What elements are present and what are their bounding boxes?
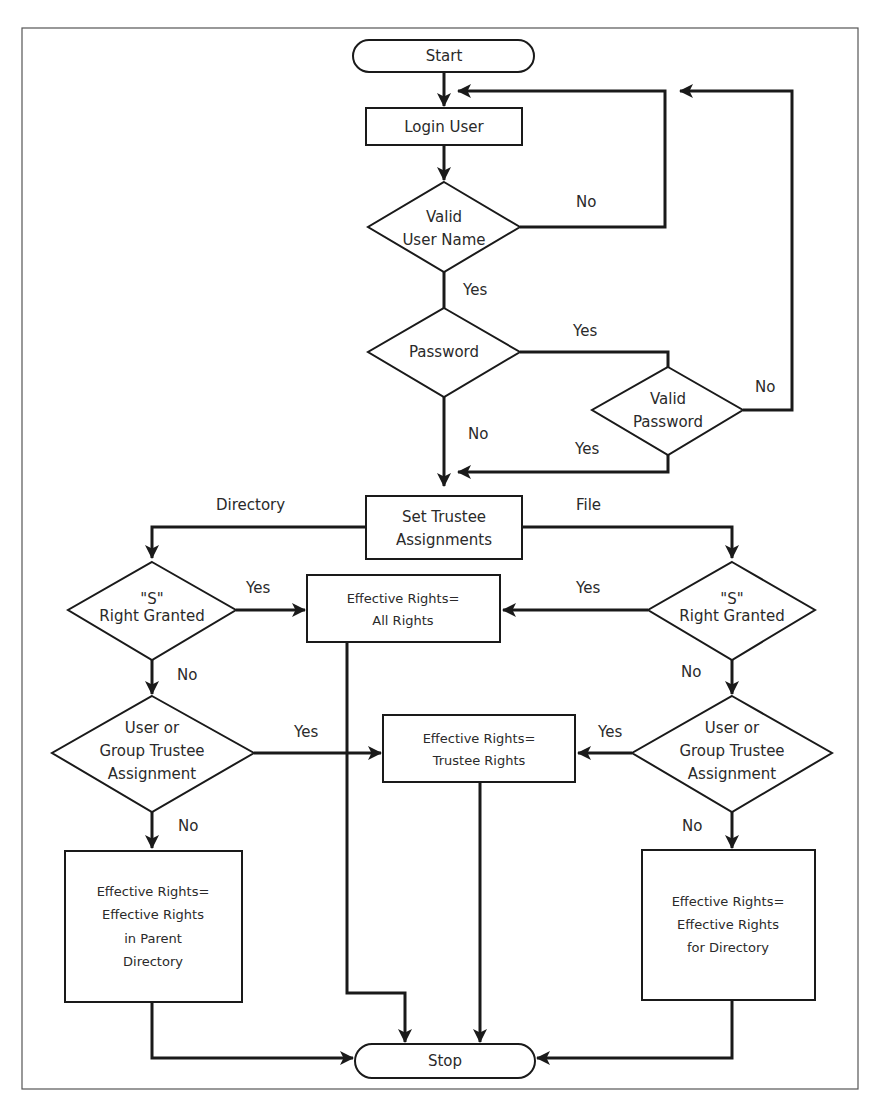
- edge-password-yes: [520, 352, 668, 367]
- label-gdir-yes: Yes: [293, 723, 318, 741]
- node-valid-user-name: [368, 182, 520, 272]
- edge-fordir-stop: [537, 1000, 732, 1058]
- trustee-rights-label-1: Effective Rights=: [423, 731, 536, 746]
- set-trustee-label-1: Set Trustee: [402, 508, 486, 526]
- edge-validpw-no-loop: [680, 91, 792, 410]
- label-sfile-yes: Yes: [575, 579, 600, 597]
- label-validpw-no: No: [755, 378, 775, 396]
- parent-dir-label-1: Effective Rights=: [97, 884, 210, 899]
- group-file-label-1: User or: [705, 719, 760, 737]
- s-right-file-label-2: Right Granted: [679, 607, 784, 625]
- node-set-trustee-assignments: [366, 496, 522, 559]
- stop-label: Stop: [428, 1052, 462, 1070]
- node-effective-all-rights: [307, 575, 500, 642]
- label-sdir-yes: Yes: [245, 579, 270, 597]
- edge-settrustee-file: [522, 527, 732, 558]
- group-dir-label-2: Group Trustee: [99, 742, 204, 760]
- for-dir-label-1: Effective Rights=: [672, 894, 785, 909]
- for-dir-label-3: for Directory: [687, 940, 769, 955]
- label-gdir-no: No: [178, 817, 198, 835]
- all-rights-label-2: All Rights: [372, 613, 433, 628]
- edge-parentdir-stop: [152, 1002, 353, 1058]
- label-sfile-no: No: [681, 663, 701, 681]
- valid-password-label-2: Password: [633, 413, 703, 431]
- all-rights-label-1: Effective Rights=: [347, 591, 460, 606]
- node-effective-parent-directory: [65, 851, 242, 1002]
- node-valid-password: [592, 367, 743, 455]
- s-right-dir-label-1: "S": [140, 590, 163, 608]
- label-sdir-no: No: [177, 666, 197, 684]
- valid-user-name-label-1: Valid: [426, 208, 462, 226]
- node-effective-trustee-rights: [383, 715, 575, 782]
- for-dir-label-2: Effective Rights: [677, 917, 779, 932]
- edge-settrustee-directory: [152, 527, 366, 558]
- group-dir-label-3: Assignment: [108, 765, 196, 783]
- label-validuser-no: No: [576, 193, 596, 211]
- password-label: Password: [409, 343, 479, 361]
- valid-password-label-1: Valid: [650, 390, 686, 408]
- label-directory: Directory: [216, 496, 285, 514]
- label-gfile-yes: Yes: [597, 723, 622, 741]
- parent-dir-label-2: Effective Rights: [102, 907, 204, 922]
- valid-user-name-label-2: User Name: [402, 231, 485, 249]
- label-password-yes: Yes: [572, 322, 597, 340]
- login-user-label: Login User: [404, 118, 484, 136]
- edge-validpw-yes: [458, 455, 668, 472]
- s-right-dir-label-2: Right Granted: [99, 607, 204, 625]
- group-file-label-2: Group Trustee: [679, 742, 784, 760]
- label-gfile-no: No: [682, 817, 702, 835]
- edge-allrights-stop: [347, 642, 405, 1042]
- group-dir-label-1: User or: [125, 719, 180, 737]
- set-trustee-label-2: Assignments: [396, 531, 492, 549]
- parent-dir-label-4: Directory: [123, 954, 183, 969]
- s-right-file-label-1: "S": [720, 590, 743, 608]
- group-file-label-3: Assignment: [688, 765, 776, 783]
- label-validuser-yes: Yes: [462, 281, 487, 299]
- start-label: Start: [426, 47, 463, 65]
- parent-dir-label-3: in Parent: [124, 931, 182, 946]
- trustee-rights-label-2: Trustee Rights: [432, 753, 526, 768]
- label-file: File: [576, 496, 601, 514]
- label-password-no: No: [468, 425, 488, 443]
- flowchart-canvas: Start Login User Valid User Name Passwor…: [0, 0, 878, 1101]
- label-validpw-yes: Yes: [574, 440, 599, 458]
